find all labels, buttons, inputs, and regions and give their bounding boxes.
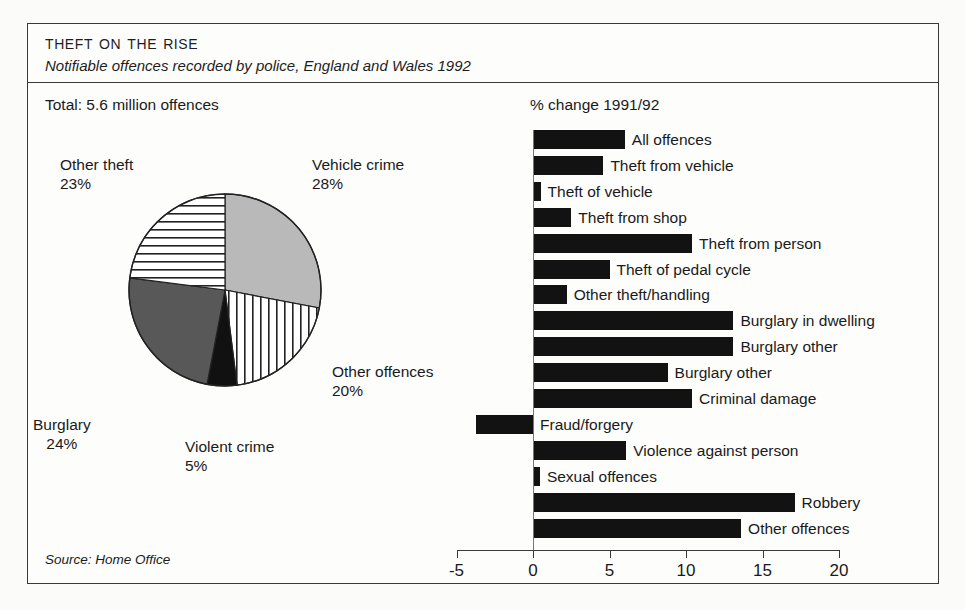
bar-chart-heading: % change 1991/92: [530, 96, 659, 114]
pie-label-other-theft-name: Other theft: [60, 156, 133, 173]
pie-label-burglary-value: 24%: [46, 435, 77, 452]
pie-label-other-theft: Other theft 23%: [60, 155, 133, 193]
pie-label-burglary-name: Burglary: [33, 416, 91, 433]
header-divider: [28, 82, 938, 83]
pie-slices: [129, 194, 321, 386]
pie-label-other-offences-name: Other offences: [332, 363, 433, 380]
pie-label-burglary: Burglary 24%: [33, 415, 91, 453]
pie-chart: [100, 165, 350, 415]
pie-label-violent-crime: Violent crime 5%: [185, 437, 274, 475]
pie-label-other-offences-value: 20%: [332, 382, 363, 399]
source-note: Source: Home Office: [45, 552, 170, 567]
figure-title: Theft on the Rise: [45, 31, 198, 54]
figure-subtitle: Notifiable offences recorded by police, …: [45, 57, 471, 74]
pie-label-vehicle-crime-name: Vehicle crime: [312, 156, 404, 173]
pie-label-violent-crime-value: 5%: [185, 457, 207, 474]
pie-label-other-theft-value: 23%: [60, 175, 91, 192]
pie-slice-burglary: [129, 278, 225, 384]
pie-label-violent-crime-name: Violent crime: [185, 438, 274, 455]
pie-total-label: Total: 5.6 million offences: [45, 96, 219, 114]
pie-slice-vehicle-crime: [225, 194, 321, 308]
infographic-root: Theft on the Rise Notifiable offences re…: [0, 0, 965, 610]
pie-slice-other-theft: [130, 194, 225, 290]
pie-label-vehicle-crime-value: 28%: [312, 175, 343, 192]
pie-label-other-offences: Other offences 20%: [332, 362, 433, 400]
pie-label-vehicle-crime: Vehicle crime 28%: [312, 155, 404, 193]
